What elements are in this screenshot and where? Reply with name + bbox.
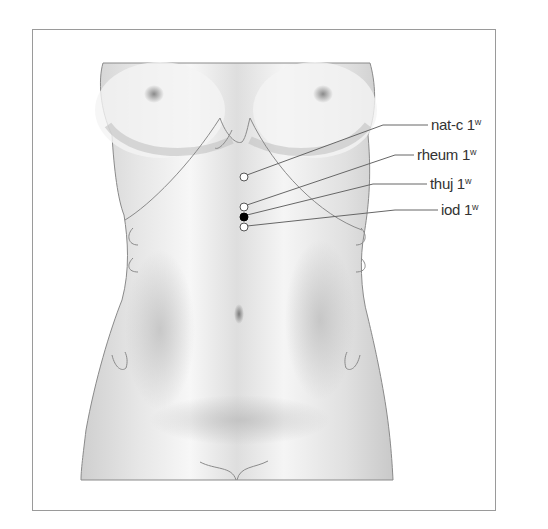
label-text: iod 1 — [441, 201, 472, 218]
point-natc — [240, 173, 248, 181]
point-iod — [240, 223, 248, 231]
torso-illustration — [0, 0, 548, 529]
label-text: thuj 1 — [430, 175, 465, 192]
label-natc: nat-c 1w — [431, 117, 481, 133]
label-sup: w — [465, 176, 471, 186]
label-rheum: rheum 1w — [417, 147, 476, 163]
label-sup: w — [470, 147, 476, 157]
label-iod: iod 1w — [441, 202, 478, 218]
label-text: rheum 1 — [417, 146, 470, 163]
point-thuj — [240, 213, 248, 221]
label-thuj: thuj 1w — [430, 176, 471, 192]
point-rheum — [240, 203, 248, 211]
label-text: nat-c 1 — [431, 116, 475, 133]
label-sup: w — [475, 117, 481, 127]
label-sup: w — [472, 202, 478, 212]
